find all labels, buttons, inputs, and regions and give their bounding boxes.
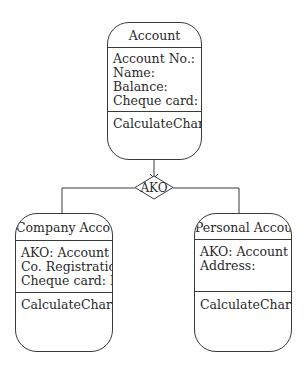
class-personal-account-attributes: AKO: Account Address: [195, 240, 291, 292]
operation: CalculateCharges [113, 117, 201, 131]
attribute: Address: [200, 259, 291, 273]
attribute: Co. Registration: [21, 260, 112, 274]
class-company-account-title: Company Account [16, 214, 112, 241]
operation: CalculateCharges [21, 298, 112, 312]
class-company-account: Company Account AKO: Account Co. Registr… [15, 213, 113, 352]
attribute: Name: [113, 66, 201, 80]
attribute: Cheque card: No [21, 274, 112, 288]
attribute: Account No.: [113, 52, 201, 66]
attribute: AKO: Account [200, 245, 291, 259]
attribute: AKO: Account [21, 246, 112, 260]
class-company-account-operations: CalculateCharges [16, 293, 112, 312]
attribute: Balance: [113, 80, 201, 94]
class-personal-account-title: Personal Account [195, 214, 291, 240]
class-account-title: Account [108, 23, 201, 48]
ako-to-company-line [62, 188, 135, 213]
class-company-account-attributes: AKO: Account Co. Registration: Cheque ca… [16, 241, 112, 293]
operation: CalculateCharges [200, 298, 291, 312]
ako-to-personal-line [173, 188, 239, 213]
attribute: Cheque card: [113, 94, 201, 108]
class-personal-account-operations: CalculateCharges [195, 292, 291, 312]
class-personal-account: Personal Account AKO: Account Address: C… [194, 213, 292, 352]
class-account-attributes: Account No.: Name: Balance: Cheque card: [108, 48, 201, 112]
class-account: Account Account No.: Name: Balance: Cheq… [107, 22, 202, 160]
ako-label: AKO [134, 182, 174, 194]
diagram-canvas: AKO Account Account No.: Name: Balance: … [0, 0, 305, 368]
class-account-operations: CalculateCharges [108, 112, 201, 131]
